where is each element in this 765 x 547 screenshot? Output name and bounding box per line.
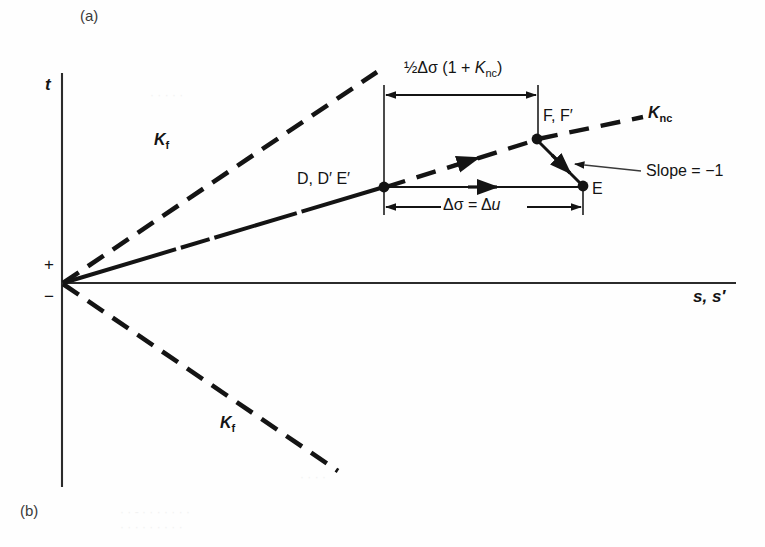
kf-upper-curve-label-subscript: f xyxy=(166,139,170,151)
bottom-dimension-label: Δσ = Δu xyxy=(443,197,501,213)
top-dimension-label-prefix: ½Δσ (1 + xyxy=(404,59,475,76)
kf-lower-curve-label-subscript: f xyxy=(232,422,236,434)
negative-sign-label: − xyxy=(44,288,54,305)
vertical-axis-label: t xyxy=(45,76,51,93)
kf-lower-curve-label-symbol: K xyxy=(220,414,232,431)
top-dimension-label: ½Δσ (1 + Knc) xyxy=(404,60,502,79)
kf-upper-curve-label: Kf xyxy=(154,132,169,151)
slope-annotation-label: Slope = −1 xyxy=(646,163,723,179)
data-point-d xyxy=(379,182,390,193)
slope-note-leader-line xyxy=(575,164,641,171)
panel-tag-a: (a) xyxy=(80,8,98,23)
path-direction-arrow-f-to-e xyxy=(552,155,570,173)
kf-upper-curve-label-symbol: K xyxy=(154,131,166,148)
positive-sign-label: + xyxy=(44,256,54,273)
knc-curve-label-symbol: K xyxy=(648,104,660,121)
knc-line-origin-to-d xyxy=(63,187,384,283)
stress-path-diagram xyxy=(0,0,765,547)
data-point-e xyxy=(578,181,589,192)
knc-curve-label: Knc xyxy=(648,105,672,124)
bottom-dimension-label-text: Δσ = Δ xyxy=(443,196,492,213)
figure-page: · · · · · · · · · · · · · · · · · · · · … xyxy=(0,0,765,547)
top-dimension-label-suffix: ) xyxy=(497,59,502,76)
path-direction-arrow-d-to-f xyxy=(452,158,478,166)
bottom-dimension-label-italic: u xyxy=(492,196,501,213)
data-point-f xyxy=(532,134,543,145)
panel-tag-b: (b) xyxy=(20,503,38,518)
top-dimension-label-subscript: nc xyxy=(485,67,497,79)
knc-curve-label-subscript: nc xyxy=(660,112,673,124)
point-label-d: D, D′ E′ xyxy=(297,171,350,187)
point-label-f: F, F′ xyxy=(543,108,573,124)
point-label-e: E xyxy=(592,181,603,197)
horizontal-axis-label: s, s′ xyxy=(693,288,725,305)
kf-lower-envelope-line xyxy=(63,284,338,471)
top-dimension-label-symbol: K xyxy=(475,59,486,76)
kf-lower-curve-label: Kf xyxy=(220,415,235,434)
